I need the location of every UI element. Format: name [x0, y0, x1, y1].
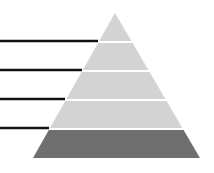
- pyramid-tier-3: [66, 72, 165, 99]
- pyramid-tier-1: [99, 13, 131, 41]
- pyramid-tier-5: [33, 130, 200, 158]
- pyramid-canvas: [0, 0, 214, 173]
- pyramid-diagram: [0, 0, 214, 173]
- pyramid-tier-2: [83, 43, 149, 70]
- pyramid-tier-4: [50, 101, 182, 128]
